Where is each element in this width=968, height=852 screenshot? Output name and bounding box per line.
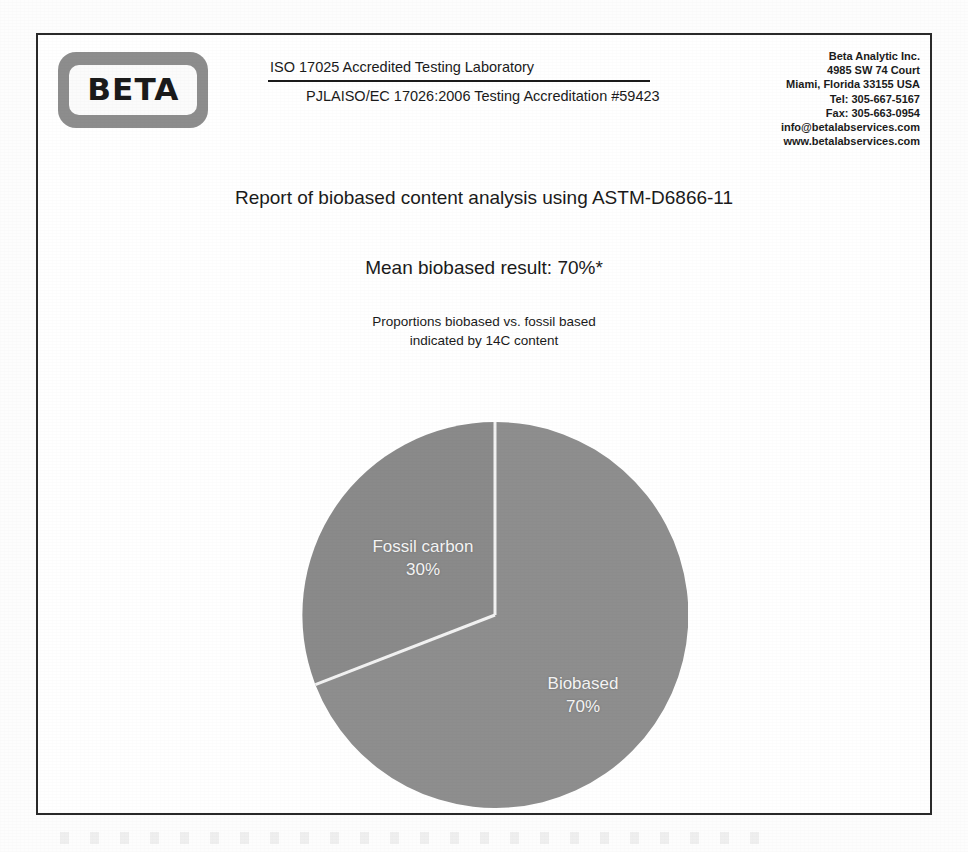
contact-block: Beta Analytic Inc. 4985 SW 74 Court Miam… bbox=[690, 49, 920, 148]
contact-street: 4985 SW 74 Court bbox=[690, 63, 920, 77]
scan-edge-smudge bbox=[60, 832, 760, 844]
mean-biobased-result: Mean biobased result: 70%* bbox=[38, 257, 930, 279]
accreditation-line-number: PJLAISO/EC 17026:2006 Testing Accreditat… bbox=[248, 88, 668, 104]
pie-chart-svg bbox=[302, 422, 688, 808]
beta-logo-text: BETA bbox=[87, 75, 179, 105]
pie-label-biobased: Biobased 70% bbox=[498, 672, 668, 718]
accreditation-block: ISO 17025 Accredited Testing Laboratory … bbox=[248, 59, 668, 104]
beta-logo-inner-plate: BETA bbox=[69, 65, 197, 115]
report-title: Report of biobased content analysis usin… bbox=[38, 187, 930, 209]
pie-label-fossil-carbon: Fossil carbon 30% bbox=[338, 535, 508, 581]
accreditation-line-iso17025: ISO 17025 Accredited Testing Laboratory bbox=[248, 59, 668, 75]
contact-city-state-zip: Miami, Florida 33155 USA bbox=[690, 77, 920, 91]
contact-email: info@betalabservices.com bbox=[690, 120, 920, 134]
document-frame: BETA ISO 17025 Accredited Testing Labora… bbox=[36, 33, 932, 815]
contact-website: www.betalabservices.com bbox=[690, 134, 920, 148]
accreditation-divider bbox=[268, 80, 650, 82]
pie-label-fossil-carbon-name: Fossil carbon bbox=[338, 535, 508, 558]
contact-company: Beta Analytic Inc. bbox=[690, 49, 920, 63]
proportions-note-line-1: Proportions biobased vs. fossil based bbox=[38, 312, 930, 331]
pie-label-biobased-name: Biobased bbox=[498, 672, 668, 695]
scanned-page-background: BETA ISO 17025 Accredited Testing Labora… bbox=[0, 0, 968, 852]
pie-label-biobased-value: 70% bbox=[498, 695, 668, 718]
letterhead: BETA ISO 17025 Accredited Testing Labora… bbox=[38, 35, 930, 155]
biobased-content-pie-chart: Fossil carbon 30% Biobased 70% bbox=[302, 422, 688, 808]
contact-telephone: Tel: 305-667-5167 bbox=[690, 92, 920, 106]
proportions-note-line-2: indicated by 14C content bbox=[38, 331, 930, 350]
contact-fax: Fax: 305-663-0954 bbox=[690, 106, 920, 120]
beta-logo: BETA bbox=[58, 52, 208, 128]
proportions-note: Proportions biobased vs. fossil based in… bbox=[38, 312, 930, 350]
pie-label-fossil-carbon-value: 30% bbox=[338, 558, 508, 581]
